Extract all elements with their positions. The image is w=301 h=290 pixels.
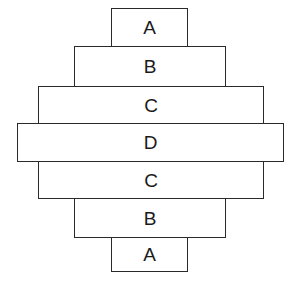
- tier-label: A: [143, 245, 156, 264]
- tier-a-top: A: [111, 8, 188, 47]
- tier-label: A: [143, 18, 156, 37]
- tier-b-top: B: [74, 46, 226, 87]
- tier-label: B: [144, 57, 157, 76]
- tier-label: B: [144, 209, 157, 228]
- tier-c-bottom: C: [38, 161, 264, 199]
- tier-b-bottom: B: [74, 198, 226, 238]
- tier-a-bottom: A: [111, 237, 188, 272]
- tier-c-top: C: [38, 86, 264, 124]
- tier-label: C: [144, 171, 158, 190]
- tier-d-middle: D: [17, 123, 284, 162]
- tier-label: C: [144, 96, 158, 115]
- tier-label: D: [144, 133, 158, 152]
